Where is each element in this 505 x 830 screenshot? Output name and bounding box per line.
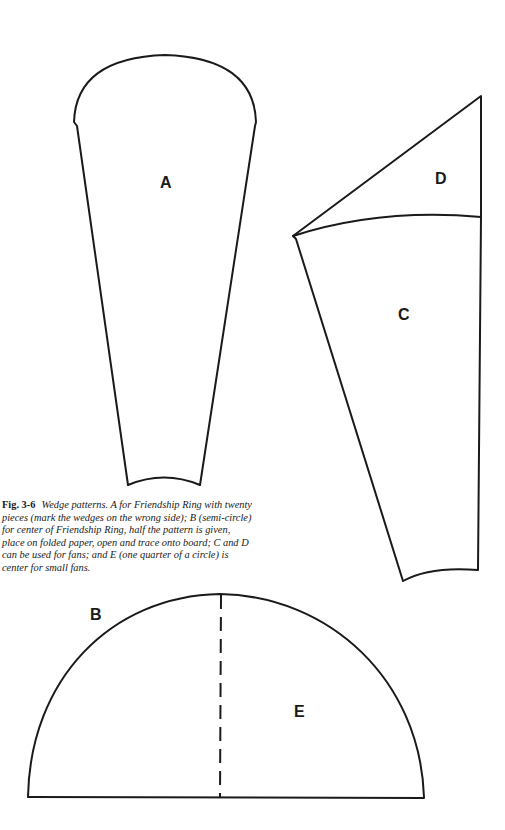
pattern-figure: A D C B E bbox=[0, 0, 505, 830]
pattern-e-label: E bbox=[294, 703, 305, 720]
semicircle-arc bbox=[28, 594, 424, 797]
figure-caption-text: Wedge patterns. A for Friendship Ring wi… bbox=[2, 499, 252, 573]
figure-number: Fig. 3-6 bbox=[2, 499, 35, 510]
pattern-b-label: B bbox=[90, 606, 102, 623]
pattern-a-label: A bbox=[160, 174, 172, 191]
pattern-c: C bbox=[293, 215, 481, 581]
pattern-d-label: D bbox=[435, 170, 447, 187]
pattern-a-outline bbox=[74, 55, 256, 485]
pattern-c-label: C bbox=[398, 306, 410, 323]
fold-line-dashed bbox=[220, 595, 221, 798]
figure-caption: Fig. 3-6Wedge patterns. A for Friendship… bbox=[2, 499, 252, 575]
semicircle-baseline bbox=[28, 797, 424, 798]
pattern-a: A bbox=[74, 55, 256, 485]
pattern-b-e: B E bbox=[28, 594, 424, 798]
pattern-c-outline bbox=[293, 215, 481, 581]
